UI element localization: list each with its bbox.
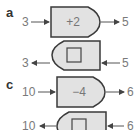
input-value-a-forward: 3 — [22, 16, 29, 28]
input-value-c-inverse: 6 — [127, 120, 134, 130]
output-value-c-forward: 6 — [127, 86, 134, 98]
part-label-a: a — [6, 5, 13, 20]
empty-square-icon — [72, 119, 86, 130]
part-label-c: c — [6, 77, 13, 92]
output-value-a-forward: 5 — [122, 16, 129, 28]
operation-a-forward: +2 — [51, 15, 95, 29]
output-value-a-inverse: 3 — [22, 57, 29, 69]
operation-c-forward: −4 — [57, 85, 101, 99]
output-value-c-inverse: 10 — [22, 120, 35, 130]
input-value-c-forward: 10 — [22, 86, 35, 98]
input-value-a-inverse: 5 — [122, 57, 129, 69]
empty-square-icon — [67, 48, 81, 62]
